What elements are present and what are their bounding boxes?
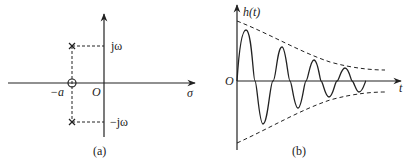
envelope-lower — [237, 92, 385, 143]
t-label: t — [399, 81, 403, 95]
origin-label-a: O — [92, 85, 101, 99]
damped-oscillation-curve — [237, 30, 366, 124]
figure: jω −jω −a O σ (a) h(t) O t (b) — [0, 0, 409, 166]
pole-zero-plot: jω −jω −a O σ (a) — [8, 14, 195, 158]
impulse-response-plot: h(t) O t (b) — [225, 5, 403, 158]
zero-label: −a — [50, 85, 64, 99]
origin-label-b: O — [225, 74, 234, 88]
caption-b: (b) — [292, 144, 306, 158]
pole-lower-label: −jω — [110, 115, 128, 129]
caption-a: (a) — [93, 144, 106, 158]
h-of-t-label: h(t) — [243, 5, 260, 19]
sigma-label: σ — [187, 86, 194, 100]
envelope-upper — [237, 21, 385, 70]
pole-upper-label: jω — [110, 39, 122, 53]
